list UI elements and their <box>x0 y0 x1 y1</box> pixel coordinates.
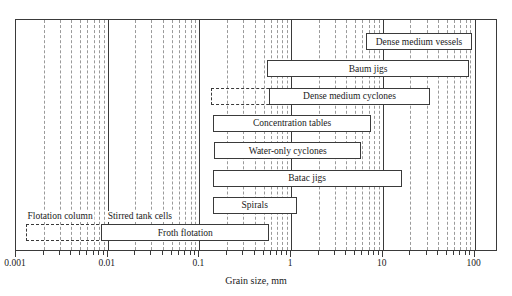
gridline-minor <box>243 20 244 250</box>
gridline-minor <box>319 20 320 250</box>
gridline-minor <box>346 20 347 250</box>
axis-tick-minor <box>103 251 104 255</box>
range-bar-label: Concentration tables <box>249 118 335 128</box>
range-bar: Baum jigs <box>267 60 469 77</box>
axis-tick-label: 0.01 <box>98 258 115 269</box>
gridline-minor <box>287 20 288 250</box>
axis-tick-minor <box>276 251 277 255</box>
axis-tick-major <box>15 251 16 257</box>
axis-tick-major <box>382 251 383 257</box>
axis-tick-minor <box>361 251 362 255</box>
range-bar: Water-only cyclones <box>214 142 361 159</box>
axis-tick-minor <box>178 251 179 255</box>
x-axis-title: Grain size, mm <box>0 275 512 286</box>
axis-tick-minor <box>446 251 447 255</box>
gridline-minor <box>195 20 196 250</box>
axis-tick-minor <box>354 251 355 255</box>
axis-tick-minor <box>345 251 346 255</box>
gridline-minor <box>271 20 272 250</box>
axis-tick-label: 0.001 <box>4 258 25 269</box>
gridline-minor <box>355 20 356 250</box>
gridline-minor <box>466 20 467 250</box>
gridline-minor <box>410 20 411 250</box>
gridline-minor <box>447 20 448 250</box>
axis-tick-minor <box>242 251 243 255</box>
grain-size-range-chart: Dense medium vesselsBaum jigsDense mediu… <box>0 0 512 296</box>
gridline-minor <box>104 20 105 250</box>
gridline-minor <box>255 20 256 250</box>
axis-tick-minor <box>459 251 460 255</box>
gridline-minor <box>227 20 228 250</box>
gridline-major <box>291 20 292 250</box>
axis-tick-minor <box>190 251 191 255</box>
gridline-major <box>475 20 476 250</box>
axis-tick-minor <box>226 251 227 255</box>
gridline-minor <box>99 20 100 250</box>
axis-tick-minor <box>318 251 319 255</box>
axis-tick-label: 100 <box>466 258 480 269</box>
range-bar: Concentration tables <box>213 115 372 132</box>
axis-tick-minor <box>426 251 427 255</box>
axis-tick-minor <box>150 251 151 255</box>
axis-tick-minor <box>93 251 94 255</box>
chart-annotation: Flotation column <box>25 211 94 222</box>
axis-tick-minor <box>162 251 163 255</box>
gridline-minor <box>362 20 363 250</box>
range-bar: Dense medium vessels <box>366 33 473 50</box>
axis-tick-minor <box>373 251 374 255</box>
gridline-minor <box>379 20 380 250</box>
axis-tick-minor <box>59 251 60 255</box>
range-bar: Dense medium cyclones <box>269 88 431 105</box>
axis-tick-minor <box>453 251 454 255</box>
range-bar-label: Baum jigs <box>345 64 392 74</box>
axis-tick-major <box>107 251 108 257</box>
axis-tick-label: 10 <box>377 258 387 269</box>
axis-tick-minor <box>184 251 185 255</box>
gridline-minor <box>185 20 186 250</box>
axis-tick-minor <box>368 251 369 255</box>
axis-tick-minor <box>98 251 99 255</box>
axis-tick-label: 0.1 <box>192 258 204 269</box>
gridline-minor <box>470 20 471 250</box>
gridline-minor <box>191 20 192 250</box>
range-bar: Spirals <box>213 197 297 214</box>
axis-tick-minor <box>437 251 438 255</box>
gridline-major <box>199 20 200 250</box>
range-bar-label: Dense medium cyclones <box>299 91 400 101</box>
range-bar-label: Dense medium vessels <box>372 37 467 47</box>
axis-tick-minor <box>378 251 379 255</box>
gridline-major <box>383 20 384 250</box>
axis-tick-minor <box>171 251 172 255</box>
axis-tick-minor <box>465 251 466 255</box>
gridline-minor <box>454 20 455 250</box>
axis-tick-minor <box>134 251 135 255</box>
gridline-minor <box>179 20 180 250</box>
gridline-minor <box>264 20 265 250</box>
gridline-minor <box>369 20 370 250</box>
axis-tick-major <box>474 251 475 257</box>
axis-tick-major <box>290 251 291 257</box>
gridline-minor <box>438 20 439 250</box>
range-bar-label: Spirals <box>238 200 272 210</box>
axis-tick-minor <box>86 251 87 255</box>
axis-tick-minor <box>286 251 287 255</box>
gridline-minor <box>277 20 278 250</box>
range-bar: Batac jigs <box>213 170 402 187</box>
axis-tick-major <box>198 251 199 257</box>
axis-tick-minor <box>270 251 271 255</box>
axis-tick-minor <box>254 251 255 255</box>
range-bar-label: Froth flotation <box>154 228 217 238</box>
gridline-minor <box>427 20 428 250</box>
range-bar-label: Water-only cyclones <box>245 146 331 156</box>
range-bar-label: Batac jigs <box>284 173 330 183</box>
gridline-minor <box>282 20 283 250</box>
axis-tick-minor <box>263 251 264 255</box>
chart-annotation: Stirred tank cells <box>106 211 174 222</box>
axis-tick-minor <box>79 251 80 255</box>
axis-tick-minor <box>70 251 71 255</box>
gridline-minor <box>460 20 461 250</box>
axis-tick-minor <box>409 251 410 255</box>
range-bar: Froth flotation <box>101 224 269 241</box>
gridline-minor <box>374 20 375 250</box>
axis-tick-minor <box>194 251 195 255</box>
